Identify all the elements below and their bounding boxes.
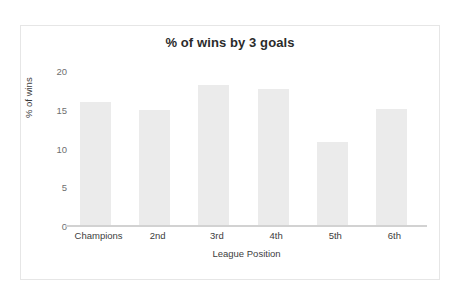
- chart-title: % of wins by 3 goals: [21, 35, 439, 50]
- bar-slot: [247, 71, 306, 226]
- bars-layer: [69, 71, 424, 226]
- x-axis-tick-label: 2nd: [128, 230, 187, 241]
- y-axis-tick-label: 10: [41, 143, 67, 154]
- bar: [376, 109, 407, 226]
- x-axis-title: League Position: [69, 248, 424, 259]
- x-axis-tick-label: Champions: [69, 230, 128, 241]
- x-axis-tick-labels: Champions 2nd 3rd 4th 5th 6th: [69, 230, 424, 246]
- bar-slot: [365, 71, 424, 226]
- chart-figure: % of wins by 3 goals % of wins 0 5 10 15…: [20, 25, 440, 280]
- plot-area: [69, 71, 424, 226]
- y-axis-tick-label: 20: [41, 66, 67, 77]
- y-axis-tick-label: 0: [41, 221, 67, 232]
- bar-slot: [306, 71, 365, 226]
- y-axis-tick-label: 5: [41, 182, 67, 193]
- x-axis-tick-label: 3rd: [187, 230, 246, 241]
- bar: [258, 89, 289, 226]
- x-axis-tick-label: 4th: [247, 230, 306, 241]
- bar: [139, 110, 170, 226]
- y-axis-title: % of wins: [23, 77, 34, 118]
- x-axis-line: [65, 225, 427, 227]
- bar-slot: [69, 71, 128, 226]
- bar: [80, 102, 111, 226]
- y-axis-tick-labels: 0 5 10 15 20: [41, 71, 67, 226]
- x-axis-tick-label: 6th: [365, 230, 424, 241]
- bar-slot: [128, 71, 187, 226]
- bar: [198, 85, 229, 226]
- bar: [317, 142, 348, 226]
- bar-slot: [187, 71, 246, 226]
- y-axis-tick-label: 15: [41, 104, 67, 115]
- x-axis-tick-label: 5th: [306, 230, 365, 241]
